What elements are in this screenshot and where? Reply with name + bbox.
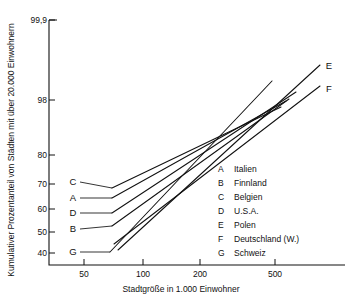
axis-spines <box>49 20 345 265</box>
legend-label-E: Polen <box>234 220 256 230</box>
legend-key-G: G <box>218 248 225 258</box>
figure-panel: 99,9 98 80 70 60 50 40 50 100 200 500 St… <box>0 0 357 308</box>
legend-key-F: F <box>218 234 223 244</box>
y-tick-label: 70 <box>38 179 48 189</box>
legend-key-B: B <box>218 178 224 188</box>
legend-label-B: Finnland <box>234 178 267 188</box>
leader-line-C <box>80 182 112 188</box>
legend-label-D: U.S.A. <box>234 206 259 216</box>
legend: A Italien B Finnland C Belgien D U.S.A. … <box>218 164 299 258</box>
legend-key-C: C <box>218 192 224 202</box>
data-curves <box>110 65 320 252</box>
y-axis-title: Kumulativer Prozentanteil von Städten mi… <box>6 23 16 277</box>
curve-label-F: F <box>326 83 332 94</box>
curve-label-E: E <box>326 60 332 71</box>
y-tick-label: 60 <box>38 204 48 214</box>
right-curve-labels: E F <box>326 60 332 94</box>
y-tick-label: 98 <box>38 95 48 105</box>
y-tick-label: 99,9 <box>30 15 47 25</box>
chart-canvas: 99,9 98 80 70 60 50 40 50 100 200 500 St… <box>0 0 357 308</box>
y-axis-ticks <box>49 20 55 253</box>
legend-label-A: Italien <box>234 164 257 174</box>
curve-label-A: A <box>70 192 77 203</box>
leader-line-B <box>80 226 112 229</box>
legend-key-E: E <box>218 220 224 230</box>
curve-label-C: C <box>70 176 77 187</box>
x-tick-label: 500 <box>268 269 282 279</box>
x-tick-label: 50 <box>79 269 89 279</box>
y-tick-label: 50 <box>38 227 48 237</box>
legend-key-D: D <box>218 206 224 216</box>
curve-label-B: B <box>70 223 76 234</box>
legend-label-G: Schweiz <box>234 248 266 258</box>
y-axis-tick-labels: 99,9 98 80 70 60 50 40 <box>30 15 47 258</box>
y-tick-label: 40 <box>38 248 48 258</box>
legend-label-C: Belgien <box>234 192 263 202</box>
left-curve-labels: C A D B G <box>69 176 112 257</box>
x-tick-label: 100 <box>136 269 150 279</box>
x-axis-ticks <box>84 259 275 265</box>
x-axis-title: Stadtgröße in 1.000 Einwohner <box>122 284 239 294</box>
legend-label-F: Deutschland (W.) <box>234 234 299 244</box>
x-tick-label: 200 <box>193 269 207 279</box>
series-line-F <box>114 86 320 244</box>
curve-label-G: G <box>69 246 76 257</box>
legend-key-A: A <box>218 164 224 174</box>
y-tick-label: 80 <box>38 150 48 160</box>
x-axis-tick-labels: 50 100 200 500 <box>79 269 282 279</box>
curve-label-D: D <box>70 207 77 218</box>
